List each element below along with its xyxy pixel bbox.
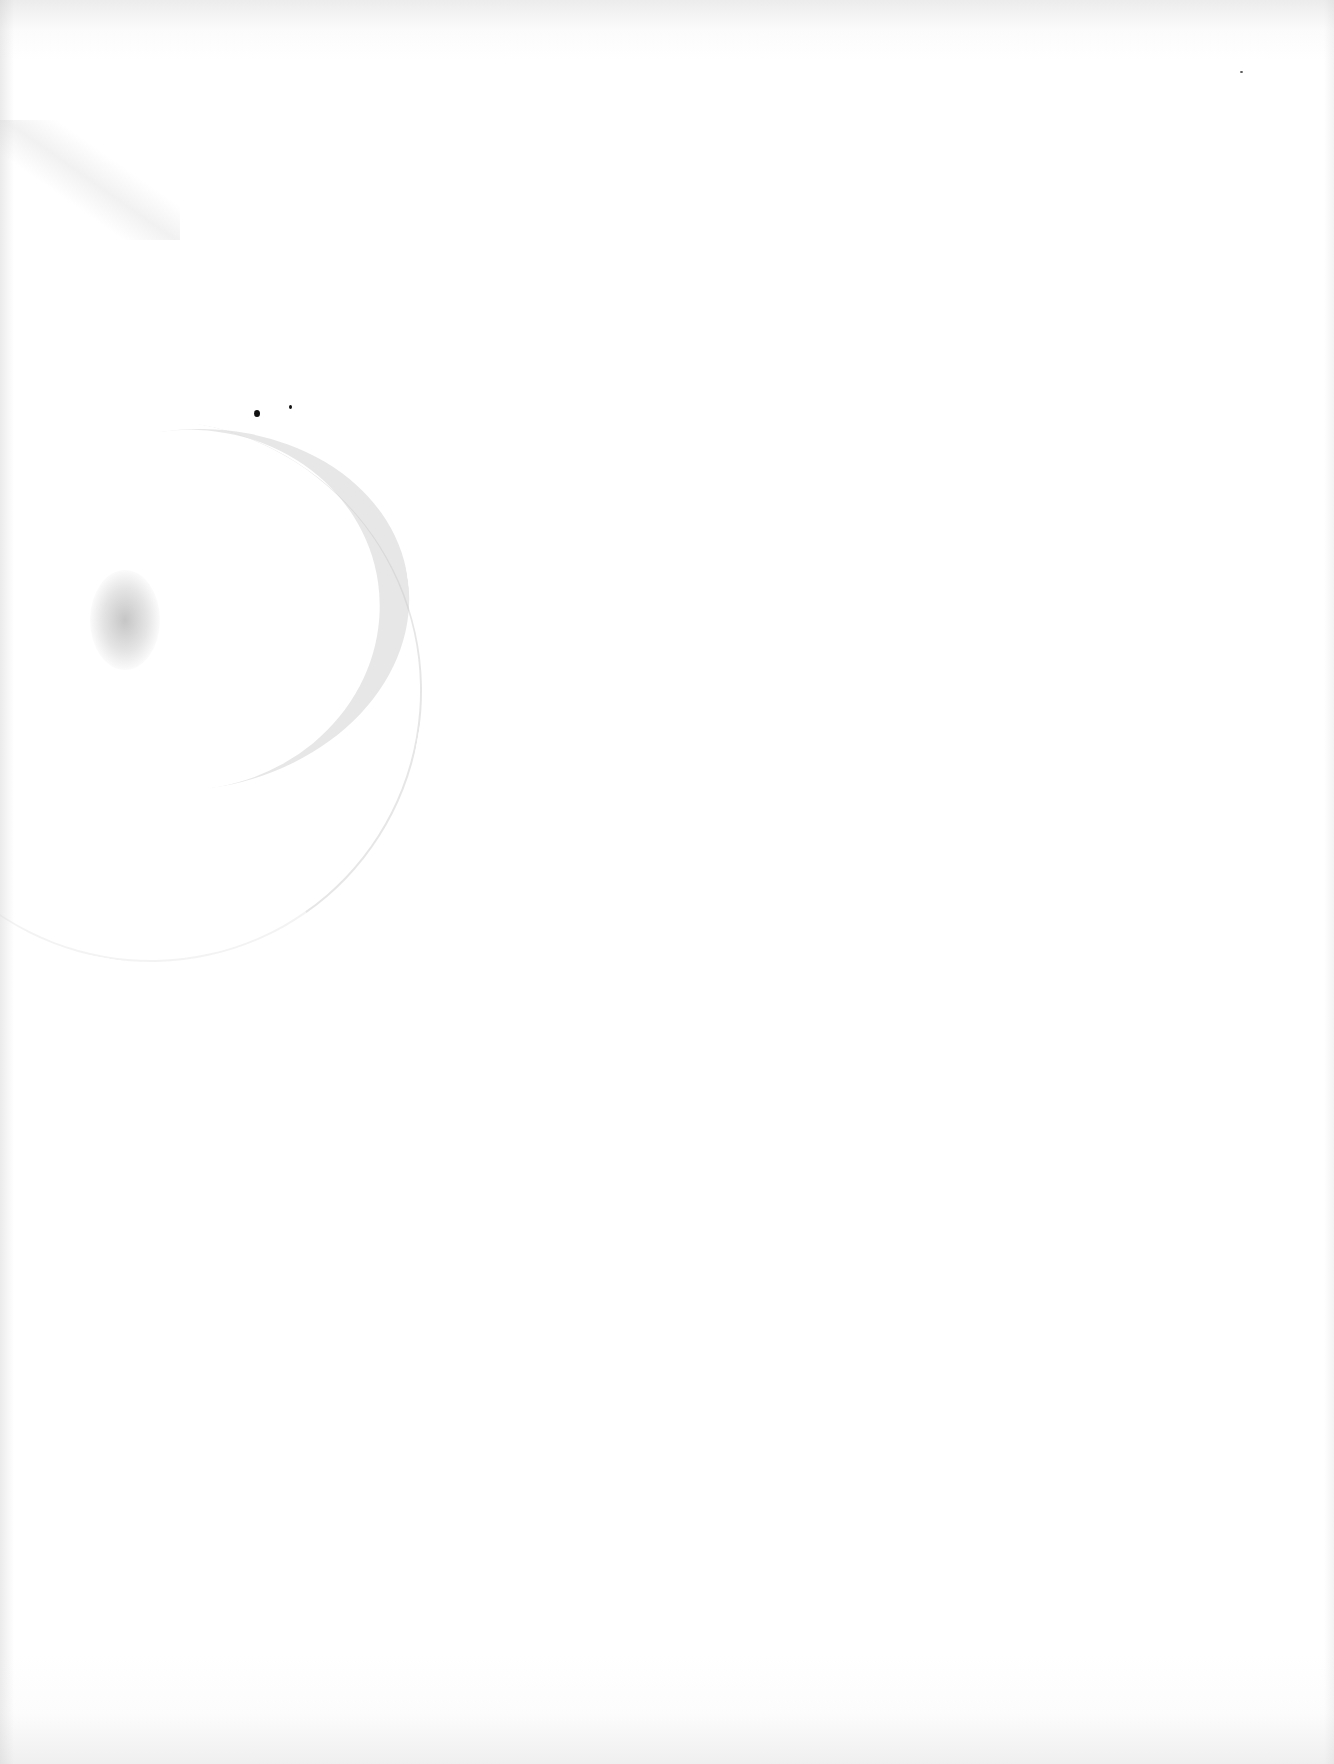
ink-dot-large bbox=[254, 410, 260, 417]
speckle-trail-top-left bbox=[0, 120, 180, 240]
blank-page bbox=[0, 0, 1334, 1764]
ink-dot-small bbox=[289, 405, 292, 409]
stain-arc-outer bbox=[0, 377, 465, 1005]
speck-top-right bbox=[1240, 71, 1243, 73]
